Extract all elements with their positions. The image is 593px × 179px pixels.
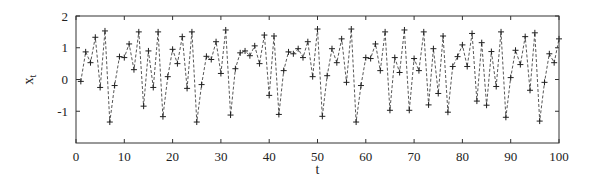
data-point <box>532 30 538 36</box>
data-point <box>440 33 446 39</box>
data-point <box>126 41 132 47</box>
data-point <box>358 83 364 89</box>
data-point <box>257 61 263 67</box>
data-point <box>421 29 427 35</box>
data-point <box>411 56 417 62</box>
data-point <box>165 74 171 80</box>
time-series-chart: 0102030405060708090100 -1012 t xt <box>0 0 593 179</box>
data-point <box>517 62 523 68</box>
data-point <box>141 103 147 109</box>
data-point <box>194 119 200 125</box>
data-point <box>546 51 552 57</box>
data-point <box>329 46 335 52</box>
data-point <box>542 79 548 85</box>
data-point <box>266 92 272 98</box>
x-tick-label: 90 <box>504 149 517 164</box>
data-point <box>324 73 330 79</box>
data-point <box>150 84 156 90</box>
data-point <box>271 33 277 39</box>
data-point <box>372 41 378 47</box>
x-tick-label: 70 <box>408 149 421 164</box>
data-point <box>107 119 113 125</box>
x-tick-label: 10 <box>118 149 131 164</box>
x-tick-label: 100 <box>549 149 569 164</box>
data-point <box>261 32 267 38</box>
data-point <box>353 119 359 125</box>
data-point <box>300 55 306 61</box>
data-point <box>479 40 485 46</box>
data-point <box>416 68 422 74</box>
data-point <box>83 49 89 55</box>
data-point <box>252 43 258 49</box>
data-point <box>484 102 490 108</box>
data-point <box>464 63 470 69</box>
data-point <box>281 68 287 74</box>
data-point <box>136 29 142 35</box>
data-point <box>508 75 514 81</box>
x-tick-label: 60 <box>359 149 372 164</box>
data-point <box>488 49 494 55</box>
data-point <box>145 48 151 54</box>
data-point <box>213 39 219 45</box>
data-point <box>430 46 436 52</box>
data-point <box>116 54 122 60</box>
x-tick-label: 0 <box>73 149 80 164</box>
data-point <box>469 30 475 36</box>
data-point <box>498 29 504 35</box>
data-point <box>392 55 398 61</box>
data-point <box>397 70 403 76</box>
data-point <box>102 28 108 34</box>
data-point <box>87 60 93 66</box>
y-tick-label: 1 <box>62 40 69 55</box>
x-tick-label: 20 <box>166 149 179 164</box>
data-point <box>189 29 195 35</box>
data-point <box>522 34 528 40</box>
data-point <box>503 114 509 120</box>
data-point <box>92 34 98 40</box>
data-point <box>112 83 118 89</box>
y-axis-label-subscript: t <box>27 74 38 77</box>
data-point <box>348 26 354 32</box>
data-point <box>170 46 176 52</box>
data-point <box>377 68 383 74</box>
data-point <box>174 61 180 67</box>
data-point <box>343 79 349 85</box>
data-point <box>445 109 451 115</box>
data-point <box>155 29 161 35</box>
x-tick-label: 30 <box>214 149 227 164</box>
data-point <box>179 34 185 40</box>
data-point <box>121 55 127 61</box>
data-point <box>276 111 282 117</box>
y-tick-label: 0 <box>62 72 69 87</box>
x-axis-label: t <box>316 162 320 177</box>
data-point <box>435 90 441 96</box>
data-point <box>305 39 311 45</box>
data-point <box>310 74 316 80</box>
series-line-x_t <box>81 29 559 122</box>
data-point <box>426 102 432 108</box>
data-point <box>527 87 533 93</box>
data-point <box>295 46 301 52</box>
data-point <box>459 42 465 48</box>
data-point <box>184 85 190 91</box>
data-point <box>199 82 205 88</box>
data-point <box>450 63 456 69</box>
y-axis-label-main: x <box>21 77 36 84</box>
data-point <box>208 56 214 62</box>
y-tick-label: -1 <box>57 104 68 119</box>
data-point <box>319 113 325 119</box>
x-axis-ticks: 0102030405060708090100 <box>73 16 569 164</box>
data-point <box>223 27 229 33</box>
data-point <box>406 107 412 113</box>
data-point <box>363 55 369 61</box>
y-tick-label: 2 <box>62 9 69 24</box>
data-point <box>203 53 209 59</box>
data-point <box>493 83 499 89</box>
data-point <box>474 98 480 104</box>
y-axis-label: xt <box>21 74 38 84</box>
data-point <box>382 29 388 35</box>
data-point <box>455 54 461 60</box>
plot-frame <box>76 16 559 143</box>
data-point <box>232 66 238 72</box>
data-point <box>513 47 519 53</box>
